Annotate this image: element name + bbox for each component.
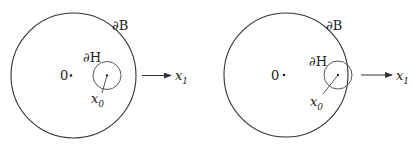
axis-label: x1	[396, 68, 409, 86]
axis-label: x1	[175, 68, 188, 86]
origin-label: 0	[271, 68, 279, 83]
outer-boundary-label: ∂B	[326, 18, 342, 33]
origin-dot	[70, 74, 73, 77]
radius-pointer-line	[102, 76, 107, 94]
outer-boundary-label: ∂B	[112, 18, 128, 33]
origin-dot	[283, 74, 286, 77]
inner-boundary-label: ∂H	[83, 50, 101, 65]
point-label: x0	[91, 91, 104, 109]
point-label-subscript: 0	[98, 99, 104, 109]
point-label: x0	[310, 94, 323, 112]
panel-left: ∂B ∂H 0 x0 x1	[11, 13, 188, 138]
point-label-subscript: 0	[317, 102, 323, 112]
inner-boundary-label: ∂H	[309, 54, 327, 69]
panel-right: ∂B ∂H 0 x0 x1	[224, 13, 409, 137]
radius-pointer-line	[323, 75, 338, 94]
origin-label: 0	[60, 68, 68, 83]
axis-label-subscript: 1	[182, 76, 188, 86]
domain-diagram: ∂B ∂H 0 x0 x1 ∂B ∂H 0 x0 x1	[0, 0, 414, 149]
axis-label-subscript: 1	[403, 76, 409, 86]
